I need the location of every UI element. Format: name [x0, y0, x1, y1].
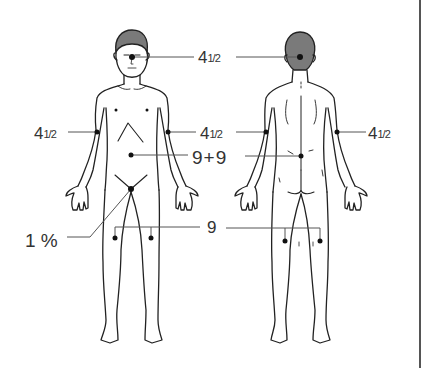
- dot-front-head: [129, 54, 135, 60]
- front-right-hand: [66, 186, 88, 210]
- dot-back-left-arm: [335, 130, 340, 135]
- dot-front-trunk: [129, 153, 134, 158]
- label-trunk: 9+9: [192, 148, 226, 167]
- label-front-right-arm: 41/2: [34, 125, 56, 143]
- back-figure: [235, 32, 367, 343]
- rule-of-nines-diagram: 41/2 41/2 41/2 41/2 9+9 1 % 9: [0, 0, 422, 368]
- back-head: [285, 32, 314, 70]
- dot-back-left-leg: [318, 239, 323, 244]
- dot-genitals: [128, 186, 134, 192]
- dot-front-right-arm: [95, 130, 100, 135]
- label-genitals: 1 %: [25, 231, 58, 250]
- label-arms-center: 41/2: [200, 125, 222, 143]
- dot-front-chest-right: [115, 109, 118, 112]
- front-hair: [116, 30, 148, 52]
- dot-back-trunk: [299, 154, 304, 159]
- label-back-left-arm: 41/2: [368, 125, 390, 143]
- dot-back-head: [297, 54, 303, 60]
- dot-back-right-leg: [283, 239, 288, 244]
- dot-front-left-leg: [149, 236, 154, 241]
- dot-back-right-arm: [264, 130, 269, 135]
- back-left-hand: [345, 186, 367, 210]
- dot-front-right-leg: [113, 236, 118, 241]
- dot-front-left-arm: [166, 130, 171, 135]
- back-right-hand: [235, 186, 257, 210]
- label-legs: 9: [207, 219, 216, 236]
- label-head: 41/2: [198, 49, 220, 67]
- dot-front-chest-left: [146, 109, 149, 112]
- frame-border: [419, 0, 421, 368]
- front-left-hand: [176, 186, 198, 210]
